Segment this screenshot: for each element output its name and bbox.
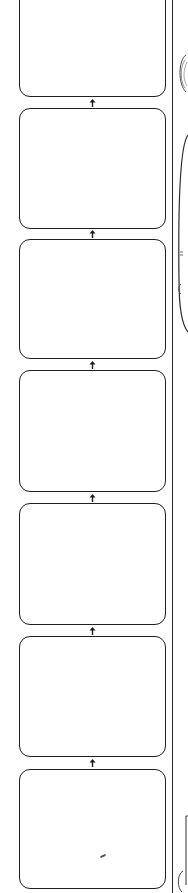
storyboard-frame-5 (19, 503, 166, 625)
storyboard-frame-3 (19, 239, 166, 359)
storyboard-frame-1 (19, 0, 166, 97)
up-arrow-icon (88, 230, 97, 238)
storyboard-frame-7 (19, 769, 166, 889)
up-arrow-icon (88, 759, 97, 767)
storyboard-frame-4 (19, 370, 166, 492)
up-arrow-icon (88, 494, 97, 502)
storyboard-frame-6 (19, 636, 166, 757)
up-arrow-icon (88, 99, 97, 107)
up-arrow-icon (88, 627, 97, 635)
adjacent-column-fragment (174, 0, 188, 893)
up-arrow-icon (88, 361, 97, 369)
storyboard-frame-2 (19, 108, 166, 229)
